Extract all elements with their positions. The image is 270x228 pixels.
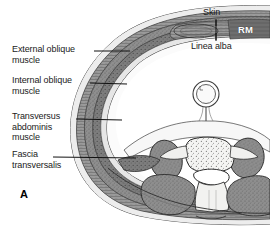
label-linea-alba: Linea alba xyxy=(191,41,232,52)
label-rectus-muscle-rm: RM xyxy=(238,24,253,35)
label-fascia-transversalis: Fascia transversalis xyxy=(12,149,61,170)
label-transversus-abdominis: Transversus abdominis muscle xyxy=(12,111,60,143)
label-internal-oblique: Internal oblique muscle xyxy=(12,75,72,96)
anatomy-figure-panel-a: External oblique muscle Internal oblique… xyxy=(0,0,270,228)
vertebral-body xyxy=(185,137,234,172)
label-skin: Skin xyxy=(203,7,220,18)
panel-label-a: A xyxy=(20,188,28,200)
label-external-oblique: External oblique muscle xyxy=(12,44,75,65)
